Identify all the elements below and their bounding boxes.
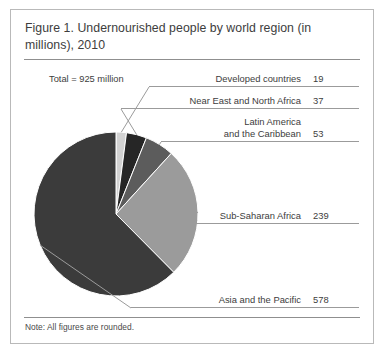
pie-leader-line xyxy=(40,245,131,308)
pie-label-text-line1: Latin America xyxy=(244,116,301,127)
pie-label-underline xyxy=(146,223,359,224)
pie-label-value: 37 xyxy=(313,95,347,106)
pie-label-asia-and-the-pacific: Asia and the Pacific 578 xyxy=(131,293,359,308)
figure-note: Note: All figures are rounded. xyxy=(25,322,134,332)
pie-label-developed-countries: Developed countries 19 xyxy=(149,72,359,87)
pie-label-underline xyxy=(121,108,359,109)
figure-container: Figure 1. Undernourished people by world… xyxy=(10,9,374,344)
pie-label-sub-saharan-africa: Sub-Saharan Africa 239 xyxy=(146,209,359,224)
title-divider xyxy=(24,59,360,60)
pie-label-text: Latin America and the Caribbean xyxy=(224,116,301,139)
pie-label-text-line2: and the Caribbean xyxy=(224,128,301,139)
pie-label-latin-america-and-the-caribbean: Latin America and the Caribbean 53 xyxy=(161,114,359,142)
pie-leader-line xyxy=(121,109,137,135)
pie-slice xyxy=(116,132,127,214)
pie-label-value: 19 xyxy=(313,73,347,84)
pie-label-value: 53 xyxy=(313,128,347,139)
pie-leader-line xyxy=(160,142,162,145)
pie-label-text: Sub-Saharan Africa xyxy=(220,210,301,222)
pie-label-text: Asia and the Pacific xyxy=(219,294,301,306)
figure-title: Figure 1. Undernourished people by world… xyxy=(25,20,359,53)
pie-slice xyxy=(116,133,146,214)
pie-label-underline xyxy=(131,307,359,308)
pie-label-underline xyxy=(161,141,359,142)
pie-label-value: 239 xyxy=(313,210,347,221)
pie-total-label: Total = 925 million xyxy=(49,74,124,84)
pie-label-text: Developed countries xyxy=(216,73,301,85)
pie-label-text: Near East and North Africa xyxy=(189,95,301,107)
pie-slice xyxy=(116,138,171,214)
note-divider xyxy=(24,317,360,318)
pie-label-value: 578 xyxy=(313,294,347,305)
pie-label-near-east-and-north-africa: Near East and North Africa 37 xyxy=(121,94,359,109)
pie-label-underline xyxy=(149,86,359,87)
